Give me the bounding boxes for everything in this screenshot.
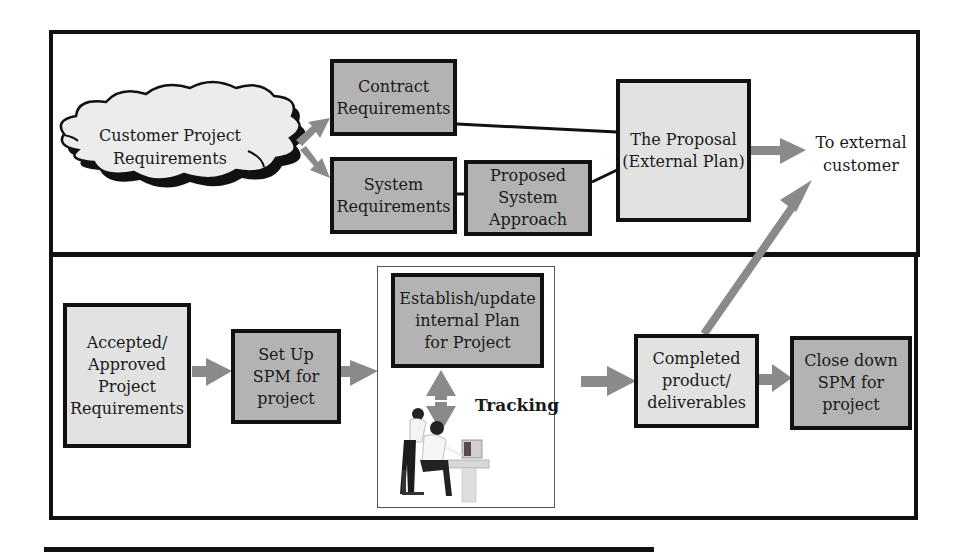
close-down-spm-box: Close down SPM for project xyxy=(790,336,912,430)
tracking-label: Tracking xyxy=(472,394,562,417)
completed-product-box: Completed product/ deliverables xyxy=(634,334,759,428)
tracking-graphics xyxy=(0,0,964,553)
